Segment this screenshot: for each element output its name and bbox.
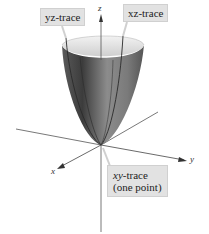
x-axis-arrowhead bbox=[57, 163, 65, 169]
yz-trace-label: yz-trace bbox=[45, 11, 80, 23]
z-axis-arrowhead bbox=[99, 14, 103, 22]
y-axis-line bbox=[101, 145, 184, 160]
diagram-canvas bbox=[0, 0, 209, 234]
y-axis-label: y bbox=[190, 154, 194, 164]
xy-trace-leader bbox=[103, 148, 110, 166]
x-axis-label: x bbox=[51, 166, 55, 176]
xy-trace-callout: xy-trace (one point) bbox=[107, 165, 168, 197]
xy-trace-line2: (one point) bbox=[113, 181, 162, 193]
xy-trace-line1: xy-trace bbox=[113, 169, 162, 181]
xz-trace-callout: xz-trace bbox=[123, 4, 168, 22]
xy-trace-variable: xy bbox=[113, 169, 123, 181]
yz-trace-callout: yz-trace bbox=[40, 8, 85, 26]
xz-trace-label: xz-trace bbox=[128, 7, 163, 19]
z-axis-label: z bbox=[98, 3, 102, 13]
xy-trace-suffix: -trace bbox=[123, 169, 148, 181]
x-axis-line bbox=[60, 145, 101, 167]
xz-trace-leader bbox=[123, 22, 127, 36]
paraboloid-surface bbox=[62, 45, 144, 145]
paraboloid-diagram: z y x yz-trace xz-trace xy-trace (one po… bbox=[0, 0, 209, 234]
yz-trace-leader bbox=[62, 26, 66, 38]
y-axis-arrowhead bbox=[178, 157, 187, 162]
